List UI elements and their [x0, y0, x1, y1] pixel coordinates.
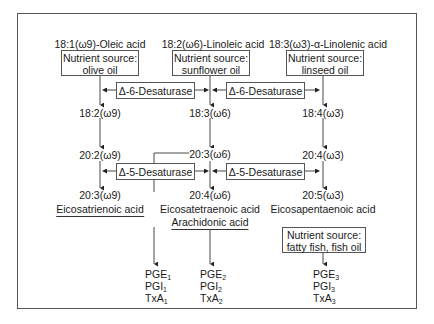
source-label: Nutrient source: [173, 52, 249, 64]
olive-oil-source-box: Nutrient source: olive oil [61, 50, 139, 76]
eicosanoid-series-2: PGE2 PGI2 TxA2 [200, 268, 226, 304]
col3-step2: 20:4(ω3) [302, 149, 343, 161]
col3-step1: 18:4(ω3) [302, 107, 343, 119]
delta6-desaturase-left: Δ-6-Desaturase [116, 82, 195, 99]
source-label: Nutrient source: [287, 52, 363, 64]
pgi3: PGI3 [313, 280, 339, 292]
eicosanoid-series-1: PGE1 PGI1 TxA1 [145, 268, 171, 304]
col3-step3: 20:5(ω3) [302, 189, 343, 201]
delta5-desaturase-left: Δ-5-Desaturase [116, 163, 195, 180]
source-value: sunflower oil [173, 64, 249, 76]
txa3: TxA3 [313, 292, 339, 304]
source-label: Nutrient source: [283, 229, 365, 241]
arachidonic-acid-label: Arachidonic acid [171, 216, 248, 230]
col1-step2: 20:2(ω9) [79, 149, 120, 161]
eicosapentaenoic-acid-label: Eicosapentaenoic acid [270, 203, 375, 215]
delta5-desaturase-right: Δ-5-Desaturase [226, 163, 305, 180]
oleic-acid-header: 18:1(ω9)-Oleic acid [54, 38, 145, 50]
source-value: fatty fish, fish oil [283, 241, 365, 253]
col2-step2: 20:3(ω6) [189, 148, 230, 160]
col2-step3: 20:4(ω6) [189, 189, 230, 201]
eicosatetraenoic-acid-label: Eicosatetraenoic acid [160, 203, 260, 215]
col2-step1: 18:3(ω6) [189, 107, 230, 119]
col1-step3: 20:3(ω9) [79, 189, 120, 201]
linseed-oil-source-box: Nutrient source: linseed oil [286, 50, 364, 76]
source-value: olive oil [62, 64, 138, 76]
pge3: PGE3 [313, 268, 339, 280]
linoleic-acid-header: 18:2(ω6)-Linoleic acid [162, 38, 265, 50]
pgi1: PGI1 [145, 280, 171, 292]
source-label: Nutrient source: [62, 52, 138, 64]
sunflower-oil-source-box: Nutrient source: sunflower oil [172, 50, 250, 76]
eicosanoid-series-3: PGE3 PGI3 TxA3 [313, 268, 339, 304]
fish-oil-source-box: Nutrient source: fatty fish, fish oil [282, 227, 366, 253]
delta6-desaturase-right: Δ-6-Desaturase [226, 82, 305, 99]
txa2: TxA2 [200, 292, 226, 304]
source-value: linseed oil [287, 64, 363, 76]
txa1: TxA1 [145, 292, 171, 304]
pge2: PGE2 [200, 268, 226, 280]
pgi2: PGI2 [200, 280, 226, 292]
eicosatrienoic-acid-label: Eicosatrienoic acid [56, 203, 144, 217]
col1-step1: 18:2(ω9) [79, 107, 120, 119]
pge1: PGE1 [145, 268, 171, 280]
linolenic-acid-header: 18:3(ω3)-α-Linolenic acid [269, 38, 387, 50]
